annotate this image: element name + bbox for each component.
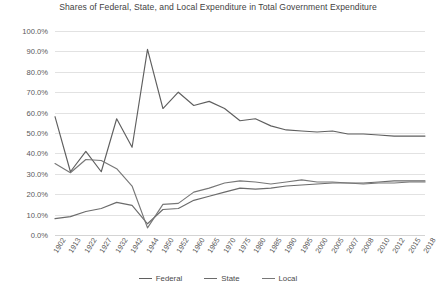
y-axis-tick-label: 40.0% <box>26 149 48 158</box>
x-axis-tick-label: 1950 <box>159 236 175 255</box>
x-axis-tick-label: 2015 <box>406 236 422 255</box>
x-axis-tick-label: 1990 <box>283 236 299 255</box>
series-line-federal <box>55 49 425 171</box>
x-axis-tick-label: 1922 <box>82 236 98 255</box>
x-axis-tick-label: 1980 <box>252 236 268 255</box>
x-axis-tick-label: 1942 <box>128 236 144 255</box>
y-axis-tick-label: 60.0% <box>26 108 48 117</box>
y-axis-tick-label: 30.0% <box>26 169 48 178</box>
x-axis-tick-label: 1970 <box>221 236 237 255</box>
x-axis-tick-label: 2000 <box>313 236 329 255</box>
chart-title: Shares of Federal, State, and Local Expe… <box>0 2 436 12</box>
legend-item-state[interactable]: State <box>204 274 239 283</box>
x-axis: 1902191319221927193219421944195019521960… <box>55 236 425 276</box>
series-line-local <box>55 160 425 228</box>
y-axis: 0.0%10.0%20.0%30.0%40.0%50.0%60.0%70.0%8… <box>0 31 52 235</box>
x-axis-tick-label: 1975 <box>236 236 252 255</box>
legend-item-local[interactable]: Local <box>262 274 298 283</box>
series-layer <box>55 31 425 235</box>
x-axis-tick-label: 1944 <box>144 236 160 255</box>
x-axis-tick-label: 2007 <box>344 236 360 255</box>
y-axis-tick-label: 100.0% <box>22 27 48 36</box>
chart-container: Shares of Federal, State, and Local Expe… <box>0 0 436 300</box>
y-axis-tick-label: 90.0% <box>26 47 48 56</box>
legend-item-federal[interactable]: Federal <box>139 274 182 283</box>
y-axis-tick-label: 80.0% <box>26 67 48 76</box>
x-axis-tick-label: 2010 <box>375 236 391 255</box>
legend-label: Federal <box>156 274 182 283</box>
y-axis-tick-label: 10.0% <box>26 210 48 219</box>
x-axis-tick-label: 2005 <box>329 236 345 255</box>
x-axis-tick-label: 1932 <box>113 236 129 255</box>
legend-line-swatch <box>204 278 217 279</box>
y-axis-tick-label: 70.0% <box>26 88 48 97</box>
x-axis-tick-label: 1985 <box>267 236 283 255</box>
legend-line-swatch <box>262 278 275 279</box>
x-axis-tick-label: 1960 <box>190 236 206 255</box>
x-axis-tick-label: 1995 <box>298 236 314 255</box>
legend-label: State <box>221 274 239 283</box>
x-axis-tick-label: 2012 <box>390 236 406 255</box>
series-line-state <box>55 181 425 224</box>
y-axis-tick-label: 0.0% <box>31 231 48 240</box>
x-axis-tick-label: 1902 <box>51 236 67 255</box>
chart-legend: FederalStateLocal <box>0 274 436 283</box>
legend-line-swatch <box>139 278 152 279</box>
x-axis-tick-label: 1952 <box>175 236 191 255</box>
y-axis-tick-label: 20.0% <box>26 190 48 199</box>
plot-area <box>55 31 425 235</box>
x-axis-tick-label: 2018 <box>421 236 436 255</box>
y-axis-tick-label: 50.0% <box>26 129 48 138</box>
x-axis-tick-label: 1927 <box>98 236 114 255</box>
legend-label: Local <box>279 274 298 283</box>
x-axis-tick-label: 2008 <box>360 236 376 255</box>
x-axis-tick-label: 1913 <box>67 236 83 255</box>
x-axis-tick-label: 1965 <box>205 236 221 255</box>
